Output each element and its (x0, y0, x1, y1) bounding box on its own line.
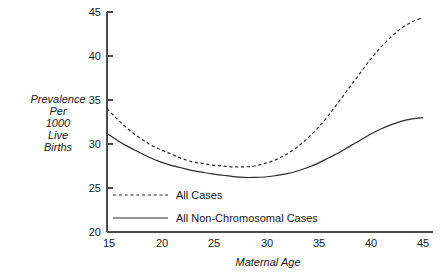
y-axis-title-line-3: 1000 (46, 117, 71, 129)
chart-legend: All Cases All Non-Chromosomal Cases (113, 189, 318, 224)
y-tick-label-25: 25 (89, 182, 101, 194)
x-tick-label-40: 40 (365, 237, 377, 249)
y-tick-label-20: 20 (89, 226, 101, 238)
y-axis-title-line-5: Births (44, 141, 73, 153)
x-axis-ticks: 15 20 25 30 35 40 45 (103, 237, 429, 249)
series-line-all-cases (107, 17, 423, 167)
x-axis-title: Maternal Age (235, 256, 300, 268)
x-tick-label-45: 45 (417, 237, 429, 249)
x-tick-label-20: 20 (156, 237, 168, 249)
x-tick-label-35: 35 (313, 237, 325, 249)
y-tick-label-35: 35 (89, 94, 101, 106)
x-tick-label-25: 25 (208, 237, 220, 249)
y-tick-label-40: 40 (89, 50, 101, 62)
y-axis-title-line-4: Live (48, 129, 68, 141)
x-tick-label-30: 30 (261, 237, 273, 249)
chart-figure: Prevalence Per 1000 Live Births 45 40 35… (0, 0, 440, 280)
legend-label-all-non-chromosomal-cases: All Non-Chromosomal Cases (176, 212, 318, 224)
y-axis-title-line-2: Per (49, 105, 67, 117)
x-tick-label-15: 15 (103, 237, 115, 249)
y-tick-label-45: 45 (89, 6, 101, 18)
legend-label-all-cases: All Cases (176, 189, 223, 201)
series-line-all-non-chromosomal-cases (107, 118, 423, 178)
y-axis-title: Prevalence Per 1000 Live Births (30, 93, 85, 153)
y-tick-label-30: 30 (89, 138, 101, 150)
y-axis-title-line-1: Prevalence (30, 93, 85, 105)
y-axis-ticks: 45 40 35 30 25 20 (89, 6, 113, 238)
line-chart: Prevalence Per 1000 Live Births 45 40 35… (0, 0, 440, 280)
